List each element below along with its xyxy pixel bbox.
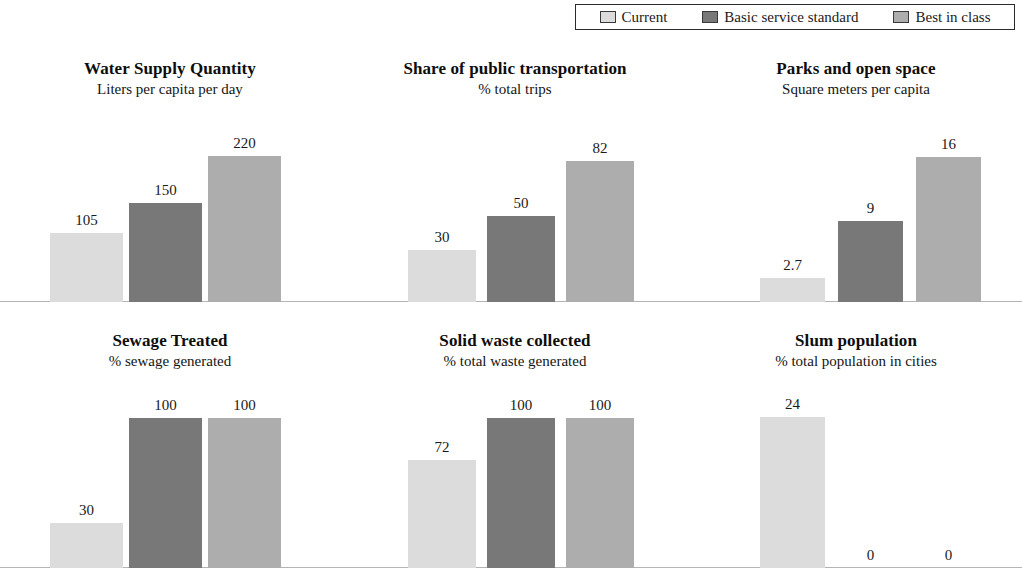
panel-header: Sewage Treated% sewage generated [0, 330, 340, 371]
legend-label-basic-service-standard: Basic service standard [724, 10, 858, 25]
bar-current [50, 523, 123, 568]
bar-group-basic-service-standard: 100 [129, 398, 202, 568]
panel-title: Parks and open space [690, 58, 1022, 80]
plot-area: 72100100 [340, 398, 690, 568]
bar-basic-service-standard [838, 221, 903, 302]
legend-entry-basic-service-standard: Basic service standard [702, 10, 858, 25]
legend-entry-best-in-class: Best in class [893, 10, 990, 25]
legend-swatch-best-in-class [893, 11, 909, 23]
plot-area: 305082 [340, 130, 690, 302]
bar-current [760, 417, 825, 568]
bar-current [760, 278, 825, 302]
bar-value-label: 9 [832, 201, 910, 216]
bar-basic-service-standard [129, 418, 202, 568]
chart-panel-sewage-treated: Sewage Treated% sewage generated30100100 [0, 330, 340, 568]
bar-basic-service-standard [129, 203, 202, 302]
legend-label-current: Current [622, 10, 668, 25]
panel-subtitle: % total population in cities [690, 352, 1022, 372]
bar-group-current: 105 [50, 130, 123, 302]
panel-subtitle: % total waste generated [340, 352, 690, 372]
bar-group-basic-service-standard: 100 [487, 398, 555, 568]
bar-value-label: 30 [401, 230, 483, 245]
plot-area: 2.7916 [690, 130, 1022, 302]
panel-title: Solid waste collected [340, 330, 690, 352]
bar-value-label: 100 [122, 398, 210, 413]
bar-group-best-in-class: 82 [566, 130, 634, 302]
legend-swatch-basic-service-standard [702, 11, 718, 23]
chart-panel-parks-and-open-space: Parks and open spaceSquare meters per ca… [690, 58, 1022, 302]
bar-current [50, 233, 123, 302]
panel-title: Water Supply Quantity [0, 58, 340, 80]
bar-group-current: 30 [408, 130, 476, 302]
bar-best-in-class [208, 418, 281, 568]
bar-group-current: 24 [760, 398, 825, 568]
bar-value-label: 100 [201, 398, 289, 413]
plot-area: 30100100 [0, 398, 340, 568]
legend-entry-current: Current [600, 10, 668, 25]
bar-group-basic-service-standard: 150 [129, 130, 202, 302]
legend-label-best-in-class: Best in class [915, 10, 990, 25]
bar-group-basic-service-standard: 9 [838, 130, 903, 302]
panel-title: Share of public transportation [340, 58, 690, 80]
panel-subtitle: % sewage generated [0, 352, 340, 372]
bar-value-label: 100 [480, 398, 562, 413]
bar-group-current: 2.7 [760, 130, 825, 302]
bar-group-best-in-class: 220 [208, 130, 281, 302]
chart-panel-water-supply-quantity: Water Supply QuantityLiters per capita p… [0, 58, 340, 302]
bar-value-label: 30 [43, 503, 131, 518]
bar-basic-service-standard [487, 418, 555, 568]
panel-subtitle: % total trips [340, 80, 690, 100]
bar-group-basic-service-standard: 0 [838, 398, 903, 568]
panel-header: Parks and open spaceSquare meters per ca… [690, 58, 1022, 99]
bar-value-label: 220 [201, 136, 289, 151]
chart-panel-share-of-public-transportation: Share of public transportation% total tr… [340, 58, 690, 302]
bar-value-label: 50 [480, 196, 562, 211]
bar-group-best-in-class: 100 [208, 398, 281, 568]
panel-title: Slum population [690, 330, 1022, 352]
plot-area: 2400 [690, 398, 1022, 568]
bar-value-label: 24 [754, 397, 832, 412]
bar-value-label: 16 [910, 137, 988, 152]
panel-header: Solid waste collected% total waste gener… [340, 330, 690, 371]
panel-header: Slum population% total population in cit… [690, 330, 1022, 371]
bar-group-best-in-class: 0 [916, 398, 981, 568]
bar-best-in-class [916, 157, 981, 302]
bar-current [408, 250, 476, 302]
bar-value-label: 0 [832, 548, 910, 563]
bar-basic-service-standard [487, 216, 555, 302]
bar-best-in-class [566, 161, 634, 302]
bar-value-label: 82 [559, 141, 641, 156]
bar-group-best-in-class: 100 [566, 398, 634, 568]
bar-value-label: 2.7 [754, 258, 832, 273]
legend-swatch-current [600, 11, 616, 23]
bar-group-current: 72 [408, 398, 476, 568]
bar-value-label: 100 [559, 398, 641, 413]
bar-group-basic-service-standard: 50 [487, 130, 555, 302]
bar-value-label: 72 [401, 440, 483, 455]
bar-value-label: 150 [122, 183, 210, 198]
chart-legend: Current Basic service standard Best in c… [575, 4, 1015, 30]
bar-value-label: 0 [910, 548, 988, 563]
panel-title: Sewage Treated [0, 330, 340, 352]
plot-area: 105150220 [0, 130, 340, 302]
bar-best-in-class [566, 418, 634, 568]
bar-group-current: 30 [50, 398, 123, 568]
panel-header: Water Supply QuantityLiters per capita p… [0, 58, 340, 99]
chart-panel-slum-population: Slum population% total population in cit… [690, 330, 1022, 568]
chart-panel-solid-waste-collected: Solid waste collected% total waste gener… [340, 330, 690, 568]
panel-header: Share of public transportation% total tr… [340, 58, 690, 99]
bar-value-label: 105 [43, 213, 131, 228]
bar-best-in-class [208, 156, 281, 302]
bar-group-best-in-class: 16 [916, 130, 981, 302]
panel-subtitle: Liters per capita per day [0, 80, 340, 100]
bar-current [408, 460, 476, 568]
panel-subtitle: Square meters per capita [690, 80, 1022, 100]
